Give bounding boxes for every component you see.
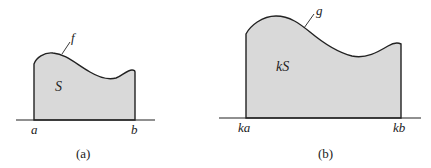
region-label-s: S bbox=[55, 79, 62, 94]
tick-label-ka: ka bbox=[238, 120, 251, 135]
tick-label-b: b bbox=[131, 122, 138, 137]
panel-a: f S a b (a) bbox=[16, 30, 155, 161]
region-label-ks: kS bbox=[276, 59, 289, 74]
curve-label-f: f bbox=[71, 30, 77, 45]
caption-b: (b) bbox=[318, 146, 333, 161]
tick-label-a: a bbox=[31, 122, 38, 137]
curve-label-g: g bbox=[316, 3, 323, 18]
tick-label-kb: kb bbox=[393, 120, 406, 135]
region-s bbox=[34, 53, 135, 120]
caption-a: (a) bbox=[76, 146, 90, 161]
area-scaling-diagram: f S a b (a) g kS ka kb (b) bbox=[0, 0, 431, 168]
curve-g-leader bbox=[304, 14, 314, 28]
curve-f-leader bbox=[62, 42, 70, 54]
region-ks bbox=[246, 16, 401, 118]
panel-b: g kS ka kb (b) bbox=[219, 3, 421, 161]
